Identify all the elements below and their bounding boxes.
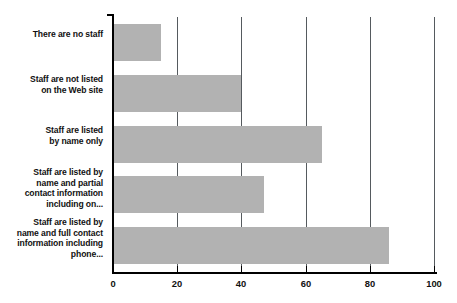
bar-chart: There are no staff Staff are not listed … [0, 0, 457, 303]
category-label-4-line-3: phone... [0, 249, 103, 260]
x-tick-80 [370, 266, 371, 273]
bar-3[interactable] [113, 176, 264, 213]
bar-1[interactable] [113, 75, 241, 112]
category-label-2-line-1: by name only [0, 136, 103, 147]
category-label-3-line-0: Staff are listed by [0, 167, 103, 178]
x-tick-100 [434, 266, 435, 273]
y-axis-line [112, 14, 114, 274]
x-axis-line [112, 272, 437, 274]
bar-0[interactable] [113, 24, 161, 61]
x-tick-40 [241, 266, 242, 273]
x-tick-label-80: 80 [350, 278, 390, 289]
gridline-100 [434, 17, 435, 271]
category-label-3-line-3: including on... [0, 199, 103, 210]
category-label-3: Staff are listed by name and partial con… [0, 167, 103, 209]
category-label-2-line-0: Staff are listed [0, 125, 103, 136]
category-label-0-line-0: There are no staff [0, 29, 103, 40]
bar-4[interactable] [113, 227, 389, 264]
category-label-4-line-1: name and full contact [0, 228, 103, 239]
category-label-column: There are no staff Staff are not listed … [0, 17, 108, 271]
category-label-2: Staff are listed by name only [0, 125, 103, 146]
x-tick-label-0: 0 [93, 278, 133, 289]
y-axis-top-tick [107, 14, 113, 16]
category-label-4-line-0: Staff are listed by [0, 217, 103, 228]
x-tick-60 [306, 266, 307, 273]
category-label-1-line-0: Staff are not listed [0, 74, 103, 85]
bar-2[interactable] [113, 126, 322, 163]
category-label-4: Staff are listed by name and full contac… [0, 217, 103, 259]
x-tick-20 [177, 266, 178, 273]
category-label-4-line-2: information including [0, 238, 103, 249]
category-label-3-line-1: name and partial [0, 178, 103, 189]
category-label-0: There are no staff [0, 29, 103, 40]
x-tick-label-40: 40 [221, 278, 261, 289]
category-label-1-line-1: on the Web site [0, 85, 103, 96]
x-tick-label-20: 20 [157, 278, 197, 289]
plot-area [113, 17, 434, 271]
x-tick-label-100: 100 [414, 278, 454, 289]
x-tick-label-60: 60 [286, 278, 326, 289]
category-label-3-line-2: contact information [0, 188, 103, 199]
category-label-1: Staff are not listed on the Web site [0, 74, 103, 95]
x-tick-0 [113, 266, 114, 273]
